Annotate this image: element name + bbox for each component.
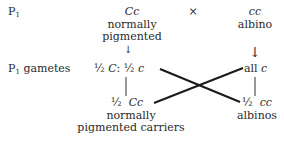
arrow-down-icon: ↓ <box>249 46 261 58</box>
offspring-left-phenotype-2: pigmented carriers <box>77 122 184 134</box>
gametes-label: P1 gametes <box>8 63 71 78</box>
cross-symbol: × <box>188 6 197 18</box>
gametes-right: all c <box>244 63 267 75</box>
p1-label: P1 <box>8 6 20 21</box>
offspring-right-phenotype: albinos <box>237 110 277 122</box>
gametes-left: ½ C: ½ c <box>94 63 144 75</box>
parent-left-phenotype-2: pigmented <box>102 31 162 43</box>
offspring-left: ½ Cc <box>111 97 143 109</box>
arrow-down-icon: ↓ <box>124 44 132 56</box>
parent-right-phenotype: albino <box>238 19 272 31</box>
parent-left-genotype: Cc <box>125 6 140 18</box>
offspring-right: ½ cc <box>242 97 272 109</box>
parent-right-genotype: cc <box>249 6 261 18</box>
